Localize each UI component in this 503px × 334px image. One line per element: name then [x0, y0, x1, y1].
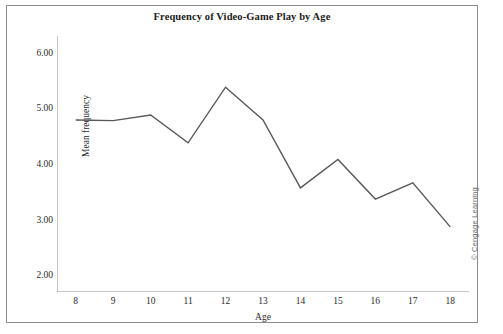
x-axis-tick-label: 10 — [139, 296, 163, 306]
x-axis-tick-label: 16 — [363, 296, 387, 306]
x-axis-tick-label: 12 — [214, 296, 238, 306]
x-axis-tick-label: 8 — [64, 296, 88, 306]
line-chart-svg — [57, 36, 469, 292]
y-axis-tick-label: 5.00 — [19, 103, 53, 113]
x-axis-tick-labels: 89101112131415161718 — [57, 296, 469, 310]
x-axis-title: Age — [57, 312, 469, 322]
y-axis-tick-label: 2.00 — [19, 270, 53, 280]
x-axis-tick-label: 9 — [101, 296, 125, 306]
plot-area: 2.003.004.005.006.00 Mean frequency 8910… — [57, 36, 469, 292]
x-axis-tick-label: 11 — [176, 296, 200, 306]
copyright-credit: © Cengage Learning — [470, 164, 479, 260]
data-series-line — [76, 87, 451, 227]
x-axis-tick-label: 13 — [251, 296, 275, 306]
x-axis-tick-label: 15 — [326, 296, 350, 306]
chart-title: Frequency of Video-Game Play by Age — [6, 11, 478, 22]
y-axis-tick-labels: 2.003.004.005.006.00 — [15, 36, 53, 292]
x-axis-tick-label: 14 — [288, 296, 312, 306]
y-axis-tick-label: 3.00 — [19, 215, 53, 225]
x-axis-tick-label: 18 — [438, 296, 462, 306]
y-axis-tick-label: 4.00 — [19, 159, 53, 169]
chart-figure: Frequency of Video-Game Play by Age 2.00… — [0, 0, 503, 334]
x-axis-tick-label: 17 — [401, 296, 425, 306]
y-axis-tick-label: 6.00 — [19, 48, 53, 58]
